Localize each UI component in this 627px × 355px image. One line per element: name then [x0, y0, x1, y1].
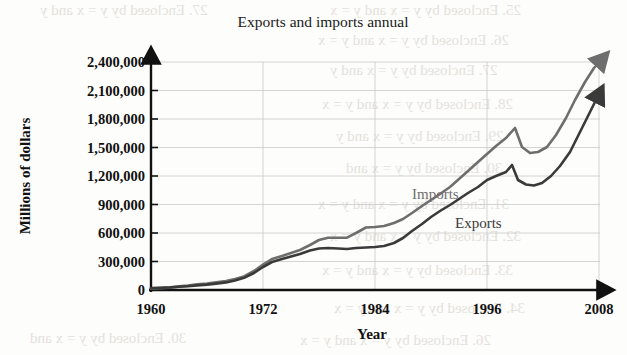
x-tick-label: 1972 — [249, 301, 278, 317]
y-tick-label: 1,500,000 — [87, 140, 145, 156]
x-axis-label: Year — [357, 326, 387, 342]
series-line-exports — [151, 98, 597, 288]
series-label-exports: Exports — [455, 215, 502, 231]
series-label-imports: Imports — [412, 186, 459, 202]
y-axis-label: Millions of dollars — [17, 118, 33, 235]
chart-svg: Exports and imports annual — [0, 0, 627, 355]
x-tick-label: 2008 — [585, 301, 614, 317]
y-tick-label: 0 — [138, 282, 145, 298]
horizontal-gridlines — [151, 62, 600, 290]
x-tick-label: 1984 — [361, 301, 390, 317]
x-tick-label: 1996 — [473, 301, 502, 317]
y-tick-label: 300,000 — [98, 254, 145, 270]
x-tick-label: 1960 — [137, 301, 166, 317]
y-tick-label: 2,100,000 — [87, 83, 145, 99]
y-tick-label: 900,000 — [98, 197, 145, 213]
chart-figure: 25. Enclosed by y = x and y = x 26. Encl… — [0, 0, 627, 355]
y-tick-label: 1,200,000 — [87, 168, 145, 184]
y-tick-label: 600,000 — [98, 225, 145, 241]
y-tick-label: 1,800,000 — [87, 111, 145, 127]
y-tick-label: 2,400,000 — [87, 54, 145, 70]
chart-title: Exports and imports annual — [238, 13, 409, 30]
